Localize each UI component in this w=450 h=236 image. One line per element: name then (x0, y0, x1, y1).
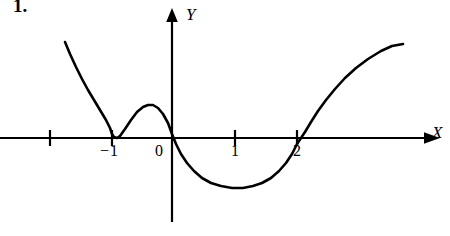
tick-label-zero: 0 (155, 143, 163, 159)
graph-canvas (0, 0, 450, 236)
y-axis-arrowhead (166, 8, 178, 22)
function-curve (65, 42, 403, 188)
tick-label-two: 2 (293, 143, 301, 159)
axes-group (0, 8, 440, 222)
y-axis-label: Y (186, 6, 195, 23)
graph-figure: 1. Y X −1 0 1 2 (0, 0, 450, 236)
x-axis-label: X (432, 124, 442, 141)
tick-label-negative-one: −1 (100, 143, 119, 159)
problem-number-label: 1. (13, 0, 27, 15)
tick-label-one: 1 (231, 143, 239, 159)
